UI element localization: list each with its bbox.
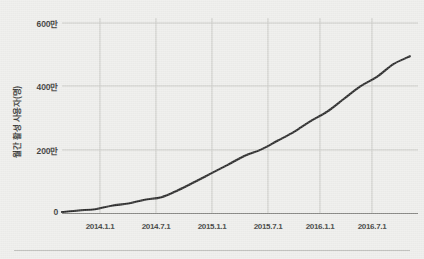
- x-tick-label-2: 2014.7.1: [126, 222, 186, 231]
- x-tick-label-3: 2015.1.1: [182, 222, 242, 231]
- y-tick-label: 400만: [37, 80, 58, 92]
- line-chart-canvas: [0, 0, 424, 259]
- y-tick-600: 600만: [20, 17, 58, 28]
- bottom-divider: [14, 250, 410, 251]
- y-tick-label: 600만: [37, 17, 58, 29]
- y-tick-label: 200만: [37, 144, 58, 156]
- y-tick-label: 0: [53, 207, 58, 217]
- series-line-monthly-active-users: [62, 56, 410, 212]
- y-tick-400: 400만: [20, 80, 58, 91]
- horizontal-gridlines: [62, 23, 418, 150]
- x-tick-label-4: 2015.7.1: [238, 222, 298, 231]
- y-tick-200: 200만: [20, 144, 58, 155]
- x-tick-label-5: 2016.1.1: [290, 222, 350, 231]
- chart-figure: 월간 활성 사용자(명) 600만 400만 200만 0 2014.1.1 2…: [0, 0, 424, 259]
- x-tick-label-6: 2016.7.1: [342, 222, 402, 231]
- y-tick-0: 0: [20, 207, 58, 218]
- x-tick-label-1: 2014.1.1: [70, 222, 130, 231]
- vertical-gridlines: [100, 18, 372, 213]
